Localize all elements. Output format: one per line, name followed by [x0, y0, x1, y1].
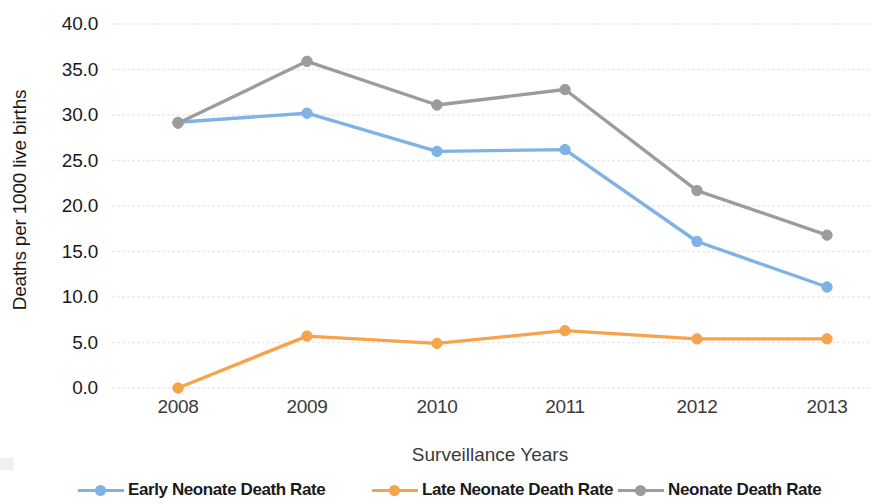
- y-tick-label: 40.0: [36, 13, 98, 35]
- x-axis-tick-labels: 200820092010201120122013: [104, 396, 876, 422]
- data-point-marker: [432, 100, 442, 110]
- data-point-marker: [432, 146, 442, 156]
- data-point-marker: [432, 338, 442, 348]
- data-point-marker: [173, 118, 183, 128]
- legend-marker-icon: [618, 483, 664, 497]
- y-tick-label: 5.0: [36, 332, 98, 354]
- scan-artifact: [0, 458, 14, 470]
- y-tick-label: 35.0: [36, 59, 98, 81]
- data-point-marker: [560, 144, 570, 154]
- data-point-marker: [302, 108, 312, 118]
- x-axis-title: Surveillance Years: [104, 444, 876, 466]
- legend-dot: [95, 485, 106, 496]
- legend-item[interactable]: Late Neonate Death Rate: [372, 480, 613, 500]
- series-line: [178, 61, 827, 235]
- chart-page: Deaths per 1000 live births 0.05.010.015…: [0, 0, 881, 504]
- legend-label: Neonate Death Rate: [668, 480, 821, 500]
- x-tick-label: 2010: [416, 396, 457, 418]
- y-tick-label: 10.0: [36, 286, 98, 308]
- y-tick-label: 30.0: [36, 104, 98, 126]
- data-point-marker: [822, 334, 832, 344]
- data-point-marker: [692, 185, 702, 195]
- series-lines: [178, 61, 827, 388]
- x-tick-label: 2012: [676, 396, 717, 418]
- legend-label: Early Neonate Death Rate: [128, 480, 325, 500]
- data-point-marker: [173, 383, 183, 393]
- y-axis-title: Deaths per 1000 live births: [0, 0, 40, 400]
- x-tick-label: 2013: [806, 396, 847, 418]
- legend-marker-icon: [372, 483, 418, 497]
- y-tick-label: 20.0: [36, 195, 98, 217]
- data-point-marker: [302, 331, 312, 341]
- legend-item[interactable]: Neonate Death Rate: [618, 480, 821, 500]
- y-tick-label: 15.0: [36, 241, 98, 263]
- y-axis-tick-labels: 0.05.010.015.020.025.030.035.040.0: [36, 0, 98, 400]
- legend-dot: [389, 485, 400, 496]
- legend-item[interactable]: Early Neonate Death Rate: [78, 480, 325, 500]
- y-axis-title-text: Deaths per 1000 live births: [9, 90, 31, 311]
- chart-legend: Early Neonate Death RateLate Neonate Dea…: [0, 478, 881, 504]
- y-tick-label: 25.0: [36, 150, 98, 172]
- x-tick-label: 2008: [157, 396, 198, 418]
- series-line: [178, 331, 827, 388]
- x-tick-label: 2011: [545, 396, 585, 418]
- data-point-marker: [302, 56, 312, 66]
- data-point-marker: [692, 334, 702, 344]
- gridlines: [112, 24, 872, 388]
- data-point-marker: [560, 84, 570, 94]
- x-tick-label: 2009: [286, 396, 327, 418]
- data-point-marker: [822, 282, 832, 292]
- y-tick-label: 0.0: [36, 377, 98, 399]
- data-point-marker: [692, 236, 702, 246]
- line-chart-svg: [104, 6, 876, 398]
- data-point-marker: [822, 230, 832, 240]
- plot-area: [104, 6, 876, 398]
- legend-label: Late Neonate Death Rate: [422, 480, 613, 500]
- legend-dot: [635, 485, 646, 496]
- legend-marker-icon: [78, 483, 124, 497]
- data-point-marker: [560, 325, 570, 335]
